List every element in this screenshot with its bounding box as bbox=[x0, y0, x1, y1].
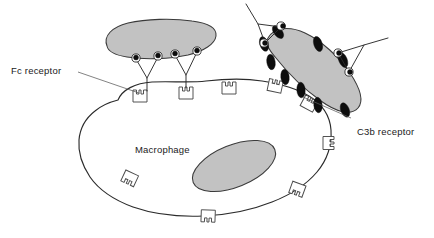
receptor-bottom-middle bbox=[201, 210, 215, 222]
receptor-fc-right bbox=[179, 87, 193, 99]
macrophage-label: Macrophage bbox=[135, 144, 190, 155]
receptor-top-middle bbox=[222, 82, 236, 94]
opsonization-figure: Fc receptor C3b receptor Macrophage bbox=[0, 0, 434, 238]
macrophage-outline bbox=[79, 79, 331, 216]
diagram-canvas: Fc receptor C3b receptor Macrophage bbox=[0, 0, 434, 238]
c3b-receptor-label: C3b receptor bbox=[357, 126, 414, 137]
receptor-c3b-a bbox=[267, 79, 283, 94]
fc-receptor-label: Fc receptor bbox=[11, 65, 61, 76]
fc-receptor-leader-line bbox=[78, 72, 139, 93]
receptor-right-side bbox=[323, 137, 334, 150]
